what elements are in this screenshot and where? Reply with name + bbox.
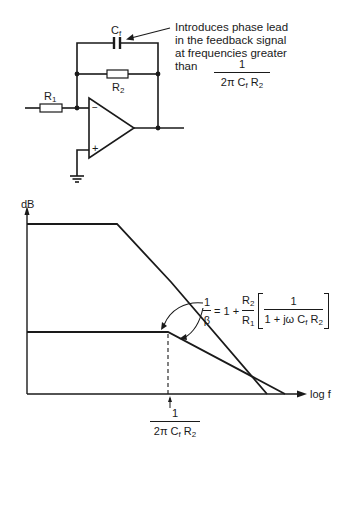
frequency-fraction: 1 2π Cf R2 [214,58,270,90]
tick-arrow-icon [168,396,172,402]
x-axis-arrow-icon [297,391,307,398]
arrow-icon [126,34,134,41]
feedback-equation: 1 β = 1 + R2 R1 1 1 + jω Cf R2 [203,293,329,329]
ground-icon [70,176,84,182]
r1-resistor [25,104,89,112]
r2-resistor [77,70,158,78]
y-axis-label: dB [21,199,34,210]
r1-label: R1 [44,91,56,104]
break-frequency-label: 1 2π Cf R2 [150,407,200,439]
r2-label: R2 [112,82,124,95]
noninverting-input-label: + [92,143,98,154]
diagram-canvas [0,0,353,518]
curve-arrow-icon [161,322,167,330]
inverting-input-label: − [92,103,98,113]
curve-arrow-icon [179,334,187,340]
capacitor-label: Cf [111,25,121,38]
feedback-curve [27,332,285,394]
x-axis-label: log f [310,389,331,400]
capacitor-branch [77,37,158,74]
